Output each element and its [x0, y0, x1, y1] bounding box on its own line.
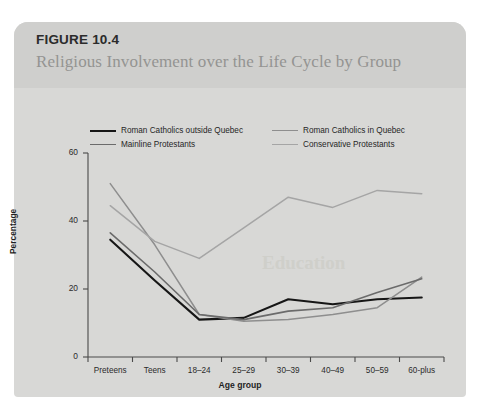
- y-tick-label: 40: [54, 215, 78, 225]
- y-tick-label: 20: [54, 283, 78, 293]
- x-tick-label: Teens: [144, 366, 166, 375]
- line-chart-svg: [14, 22, 466, 397]
- x-tick-label: 30–39: [277, 366, 300, 375]
- y-tick-label: 60: [54, 147, 78, 157]
- y-axis-title: Percentage: [8, 209, 18, 254]
- y-tick-label: 0: [54, 351, 78, 361]
- series-line: [110, 233, 422, 320]
- figure-card: FIGURE 10.4 Religious Involvement over t…: [14, 22, 466, 397]
- x-tick-label: Preteens: [94, 366, 127, 375]
- x-tick-label: 18–24: [188, 366, 211, 375]
- plot-area: Percentage Age group 0204060PreteensTeen…: [14, 22, 466, 397]
- x-tick-label: 25–29: [232, 366, 255, 375]
- series-line: [110, 184, 422, 322]
- x-tick-label: 60-plus: [408, 366, 435, 375]
- x-tick-label: 50–59: [366, 366, 389, 375]
- x-axis-title: Age group: [14, 380, 466, 390]
- x-tick-label: 40–49: [321, 366, 344, 375]
